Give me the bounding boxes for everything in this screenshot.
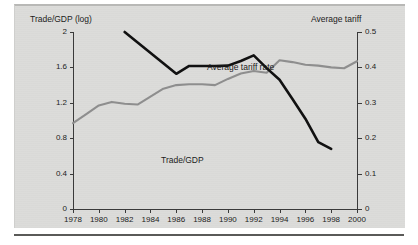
y-axis-right-tick — [357, 103, 362, 104]
y-axis-left-tick-label: 0.4 — [37, 169, 67, 178]
x-axis-tick — [254, 209, 255, 213]
y-axis-left-tick-label: 1.2 — [37, 98, 67, 107]
y-axis-left-tick-label: 0.8 — [37, 133, 67, 142]
x-axis-tick — [331, 209, 332, 213]
plot-area: 00.40.81.21.62 00.10.20.30.40.5 19781980… — [73, 32, 357, 209]
x-axis-tick — [357, 209, 358, 213]
series-lines — [73, 32, 357, 209]
x-axis-tick — [305, 209, 306, 213]
x-axis-tick — [73, 209, 74, 213]
y-axis-right-tick-label: 0.5 — [365, 27, 395, 36]
y-axis-right-tick — [357, 67, 362, 68]
x-axis-tick — [176, 209, 177, 213]
series-label-trade-gdp: Trade/GDP — [161, 155, 204, 165]
y-axis-right-line — [357, 32, 358, 209]
y-axis-right-tick-label: 0.2 — [365, 133, 395, 142]
y-axis-right-tick-label: 0.3 — [365, 98, 395, 107]
y-axis-right-tick — [357, 138, 362, 139]
y-axis-left-title: Trade/GDP (log) — [30, 14, 92, 24]
y-axis-left-tick-label: 0 — [37, 204, 67, 213]
bottom-rule — [14, 234, 404, 236]
y-axis-right-title: Average tariff — [311, 14, 361, 24]
y-axis-right-tick-label: 0 — [365, 204, 395, 213]
chart-figure: Trade/GDP (log) Average tariff 00.40.81.… — [0, 0, 418, 245]
x-axis-tick-label: 2000 — [337, 215, 377, 224]
y-axis-right-tick-label: 0.4 — [365, 62, 395, 71]
y-axis-right-tick-label: 0.1 — [365, 169, 395, 178]
line-average-tariff-rate — [125, 32, 332, 149]
x-axis-tick — [150, 209, 151, 213]
y-axis-right-tick — [357, 32, 362, 33]
y-axis-left-tick-label: 1.6 — [37, 62, 67, 71]
x-axis-tick — [228, 209, 229, 213]
y-axis-right-tick — [357, 174, 362, 175]
y-axis-left-tick-label: 2 — [37, 27, 67, 36]
x-axis-tick — [99, 209, 100, 213]
x-axis-tick — [280, 209, 281, 213]
x-axis-tick — [125, 209, 126, 213]
x-axis-tick — [202, 209, 203, 213]
x-axis-line — [73, 209, 358, 210]
series-label-average-tariff-rate: Average tariff rate — [207, 62, 274, 72]
